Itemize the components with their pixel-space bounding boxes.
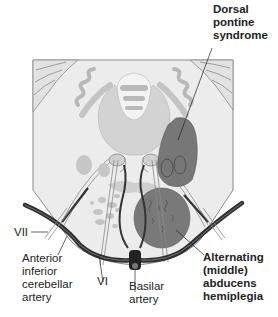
label-line: Dorsal (213, 3, 268, 16)
label-line: cerebellar (22, 278, 73, 291)
label-line: VI (97, 275, 108, 288)
ventricle-band-3 (125, 106, 143, 110)
label-dorsal-pontine-syndrome: Dorsal pontine syndrome (213, 3, 268, 42)
label-line: (middle) (203, 264, 264, 277)
label-line: Basilar (129, 280, 164, 293)
label-line: Anterior (22, 252, 73, 265)
label-line: VII (14, 226, 28, 239)
label-line: hemiplegia (203, 290, 264, 303)
label-line: syndrome (213, 29, 268, 42)
label-line: abducens (203, 277, 264, 290)
label-line: artery (129, 293, 164, 306)
label-vii: VII (14, 226, 28, 239)
basilar-artery-lumen (132, 263, 138, 269)
label-line: pontine (213, 16, 268, 29)
nucleus-blob-left-2 (98, 163, 110, 177)
label-line: Alternating (203, 251, 264, 264)
nucleus-blob-left (76, 155, 92, 175)
label-basilar-artery: Basilar artery (129, 280, 164, 306)
label-vi: VI (97, 275, 108, 288)
ventricle-band-2 (123, 96, 145, 101)
label-alternating-abducens-hemiplegia: Alternating (middle) abducens hemiplegia (203, 251, 264, 303)
label-line: inferior (22, 265, 73, 278)
label-aica: Anterior inferior cerebellar artery (22, 252, 73, 304)
label-line: artery (22, 291, 73, 304)
ventricle-band-1 (120, 85, 148, 91)
